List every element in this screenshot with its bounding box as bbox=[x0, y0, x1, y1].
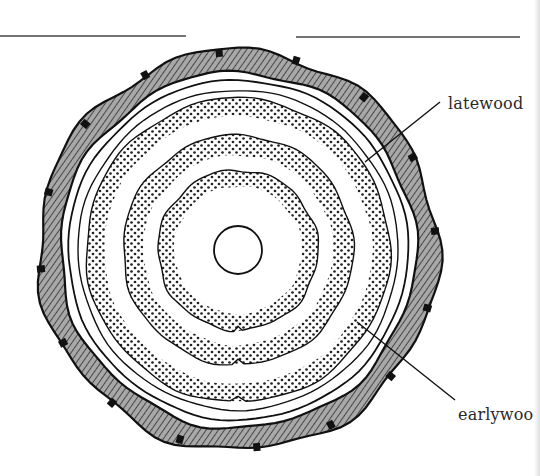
bark-notch bbox=[215, 49, 223, 58]
page-edge-shadow bbox=[534, 0, 540, 476]
bark-notch bbox=[37, 265, 46, 273]
bark-notch bbox=[253, 443, 261, 452]
pith bbox=[214, 226, 262, 274]
top-rule-lines bbox=[0, 36, 520, 37]
latewood-label: latewood bbox=[448, 94, 523, 113]
bark-notch bbox=[431, 227, 440, 235]
diagram-canvas: latewood earlywoo bbox=[0, 0, 540, 476]
pith-circle bbox=[214, 226, 262, 274]
earlywood-label: earlywoo bbox=[458, 405, 533, 424]
